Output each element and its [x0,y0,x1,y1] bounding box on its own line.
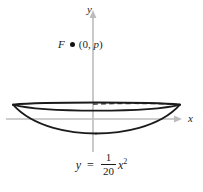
y-axis [90,10,97,152]
focus-point-dot [70,42,75,47]
rim-front-arc [13,105,180,111]
focus-coords-open: (0, [79,38,94,50]
focus-annotation: F (0, p) [58,36,103,52]
equation-exponent: 2 [123,157,127,166]
equation-expression: y = 1 20 x2 [76,152,127,177]
equation-caption: y = 1 20 x2 [0,152,203,177]
y-axis-label: y [87,4,92,15]
x-axis-label: x [188,113,193,124]
equation-x-term: x2 [118,158,127,171]
fraction-numerator: 1 [104,152,114,164]
equation-lhs: y [76,159,81,171]
equation-fraction: 1 20 [101,152,116,177]
equation-equals-sign: = [87,159,94,171]
focus-letter-label: F [58,39,65,50]
focus-coordinates: (0, p) [79,39,103,50]
parabola-figure: y x F (0, p) y = 1 20 x2 [0,0,203,192]
x-axis-arrow [174,116,182,123]
focus-coords-close: ) [99,38,103,50]
fraction-denominator: 20 [101,165,116,177]
